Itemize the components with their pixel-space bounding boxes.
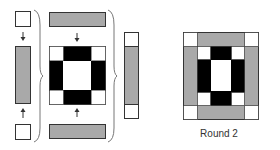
arrow-down-icon: [21, 32, 26, 41]
side-gray-strip: [16, 47, 31, 104]
round-2-label: Round 2: [188, 128, 250, 139]
arrow-up-icon: [21, 108, 26, 118]
arrow-up-icon: [75, 108, 80, 117]
left-column: [16, 12, 31, 140]
left-brace: [34, 10, 43, 142]
top-corner-square: [16, 12, 31, 27]
bottom-gray-bar: [50, 125, 106, 139]
arrow-down-icon: [75, 33, 80, 42]
round-1-block: [50, 47, 106, 105]
bottom-corner-square: [16, 125, 31, 140]
middle-column: [50, 13, 106, 139]
joined-side-strip: [125, 33, 139, 119]
round-2-block: [184, 33, 259, 120]
right-brace: [108, 10, 117, 142]
top-gray-bar: [50, 13, 106, 27]
